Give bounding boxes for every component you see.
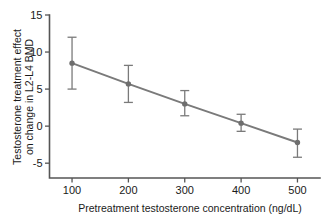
y-tick-label: 5 (36, 83, 42, 95)
error-bars (68, 37, 302, 157)
data-point (295, 140, 300, 145)
x-tick-label: 400 (232, 184, 250, 196)
data-point (238, 120, 243, 125)
data-point (69, 60, 74, 65)
x-tick-labels: 100200300400500 (63, 184, 307, 196)
x-axis-title: Pretreatment testosterone concentration … (78, 202, 302, 214)
y-tick-label: 0 (36, 120, 42, 132)
y-axis-title: Testosterone treatment effect on change … (11, 29, 35, 165)
y-axis-title-line2: on change in L2-L4 BMD (23, 39, 35, 156)
x-tick-label: 500 (288, 184, 306, 196)
x-tick-label: 200 (119, 184, 137, 196)
data-point (126, 81, 131, 86)
chart-canvas: 151050-5 100200300400500 Pretreatment te… (0, 0, 326, 219)
data-point (182, 101, 187, 106)
y-axis-title-line1: Testosterone treatment effect (11, 29, 23, 165)
x-axis-title-text: Pretreatment testosterone concentration … (78, 202, 302, 214)
x-tick-label: 300 (176, 184, 194, 196)
y-tick-label: -5 (33, 157, 43, 169)
figure-container: 151050-5 100200300400500 Pretreatment te… (0, 0, 326, 219)
y-tick-label: 15 (30, 9, 42, 21)
x-tick-label: 100 (63, 184, 81, 196)
